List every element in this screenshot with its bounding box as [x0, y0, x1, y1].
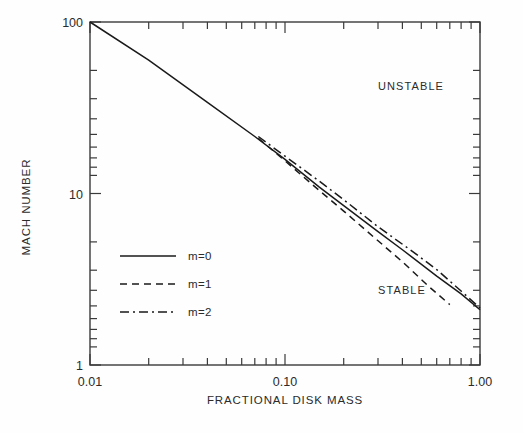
legend-item-m1[interactable]: m=1 — [120, 278, 212, 290]
figure-container: 100 10 1 0.01 0.10 1.00 FRACTIONAL DISK … — [0, 0, 523, 433]
y-axis-title: MACH NUMBER — [20, 159, 32, 256]
y-tick-label-100: 100 — [62, 16, 83, 30]
series-line-m0 — [90, 22, 480, 310]
legend-label-m2: m=2 — [188, 306, 212, 318]
x-tick-label-1-00: 1.00 — [468, 375, 492, 389]
series-line-m1 — [258, 138, 449, 304]
x-tick-label-0-01: 0.01 — [78, 375, 102, 389]
legend-label-m0: m=0 — [188, 250, 212, 262]
mach-number-vs-fractional-disk-mass-chart: 100 10 1 0.01 0.10 1.00 FRACTIONAL DISK … — [0, 0, 523, 433]
region-label-unstable: UNSTABLE — [378, 80, 444, 92]
legend: m=0 m=1 m=2 — [120, 250, 212, 318]
plot-frame — [90, 22, 480, 365]
series-line-m2 — [258, 136, 480, 307]
legend-label-m1: m=1 — [188, 278, 212, 290]
legend-item-m0[interactable]: m=0 — [120, 250, 212, 262]
data-curves — [90, 22, 480, 310]
x-tick-label-0-10: 0.10 — [273, 375, 297, 389]
legend-item-m2[interactable]: m=2 — [120, 306, 212, 318]
x-axis-title: FRACTIONAL DISK MASS — [207, 394, 363, 406]
y-tick-label-1: 1 — [76, 359, 83, 373]
x-axis-ticks — [90, 22, 480, 365]
region-label-stable: STABLE — [378, 284, 426, 296]
y-tick-label-10: 10 — [69, 188, 83, 202]
y-axis-ticks — [90, 22, 480, 365]
